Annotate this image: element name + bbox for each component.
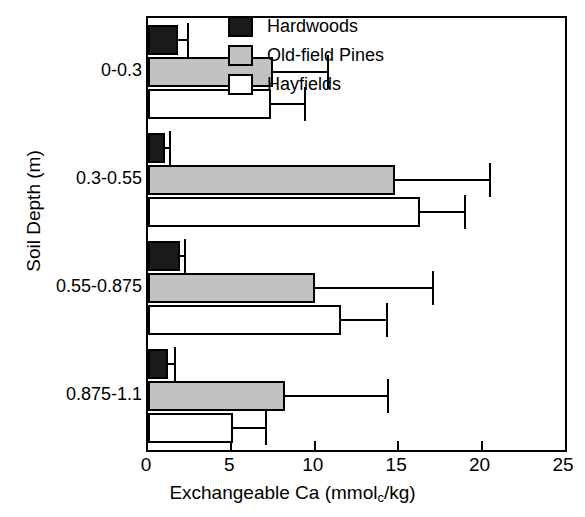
errorbar-cap-pines-0.3-0.55 — [489, 163, 491, 197]
legend-item-hardwoods: Hardwoods — [228, 12, 418, 40]
x-axis-title-pre: Exchangeable Ca (mmol — [169, 482, 377, 503]
bar-hardwoods-0-0.3 — [148, 25, 178, 55]
x-axis-title: Exchangeable Ca (mmolc/kg) — [0, 482, 585, 505]
bar-hayfields-0.875-1.1 — [148, 413, 233, 443]
bar-hardwoods-0.3-0.55 — [148, 133, 165, 163]
bar-hayfields-0.55-0.875 — [148, 305, 341, 335]
errorbar-cap-hayfields-0.55-0.875 — [386, 303, 388, 337]
errorbar-cap-hardwoods-0-0.3 — [187, 23, 189, 57]
errorbar-cap-pines-0.55-0.875 — [432, 271, 434, 305]
x-tick-mark-10 — [314, 441, 316, 450]
legend-label-hayfields: Hayfields — [267, 74, 341, 95]
errorbar-line-hayfields-0.3-0.55 — [420, 211, 465, 213]
x-tick-label-25: 25 — [543, 454, 583, 476]
bar-hardwoods-0.55-0.875 — [148, 241, 180, 271]
errorbar-line-pines-0.875-1.1 — [285, 395, 388, 397]
errorbar-line-hayfields-0.875-1.1 — [233, 427, 266, 429]
bar-pines-0.55-0.875 — [148, 273, 315, 303]
x-tick-label-20: 20 — [460, 454, 500, 476]
legend-item-hayfields: Hayfields — [228, 70, 418, 98]
y-tick-label-0.55-0.875: 0.55-0.875 — [4, 277, 142, 295]
bar-hardwoods-0.875-1.1 — [148, 349, 168, 379]
x-tick-label-15: 15 — [376, 454, 416, 476]
bar-hayfields-0.3-0.55 — [148, 197, 420, 227]
errorbar-line-hayfields-0-0.3 — [271, 103, 304, 105]
legend-label-pines: Old-field Pines — [267, 45, 384, 66]
errorbar-line-pines-0.3-0.55 — [395, 179, 490, 181]
y-tick-label-0.3-0.55: 0.3-0.55 — [4, 169, 142, 187]
legend-item-pines: Old-field Pines — [228, 41, 418, 69]
errorbar-line-pines-0.55-0.875 — [315, 287, 433, 289]
chart-figure: Soil Depth (m) 0-0.30.3-0.550.55-0.8750.… — [0, 0, 585, 517]
errorbar-cap-pines-0.875-1.1 — [387, 379, 389, 413]
x-tick-label-5: 5 — [209, 454, 249, 476]
y-tick-label-0.875-1.1: 0.875-1.1 — [4, 385, 142, 403]
errorbar-cap-hayfields-0.3-0.55 — [464, 195, 466, 229]
legend-swatch-hardwoods — [228, 16, 253, 37]
y-axis-tick-labels: 0-0.30.3-0.550.55-0.8750.875-1.1 — [0, 0, 142, 517]
legend-label-hardwoods: Hardwoods — [267, 16, 358, 37]
chart-legend: HardwoodsOld-field PinesHayfields — [228, 12, 418, 99]
bar-pines-0.3-0.55 — [148, 165, 395, 195]
x-tick-label-10: 10 — [293, 454, 333, 476]
x-tick-label-0: 0 — [126, 454, 166, 476]
x-tick-mark-5 — [230, 441, 232, 450]
y-tick-label-0-0.3: 0-0.3 — [4, 61, 142, 79]
errorbar-cap-hardwoods-0.875-1.1 — [174, 347, 176, 381]
bar-pines-0.875-1.1 — [148, 381, 285, 411]
x-tick-mark-20 — [481, 441, 483, 450]
x-tick-mark-15 — [397, 441, 399, 450]
legend-swatch-pines — [228, 45, 253, 66]
errorbar-cap-hardwoods-0.3-0.55 — [169, 131, 171, 165]
errorbar-cap-hardwoods-0.55-0.875 — [184, 239, 186, 273]
errorbar-line-hayfields-0.55-0.875 — [341, 319, 386, 321]
errorbar-cap-hayfields-0.875-1.1 — [265, 411, 267, 445]
legend-swatch-hayfields — [228, 74, 253, 95]
x-axis-title-post: /kg) — [384, 482, 416, 503]
